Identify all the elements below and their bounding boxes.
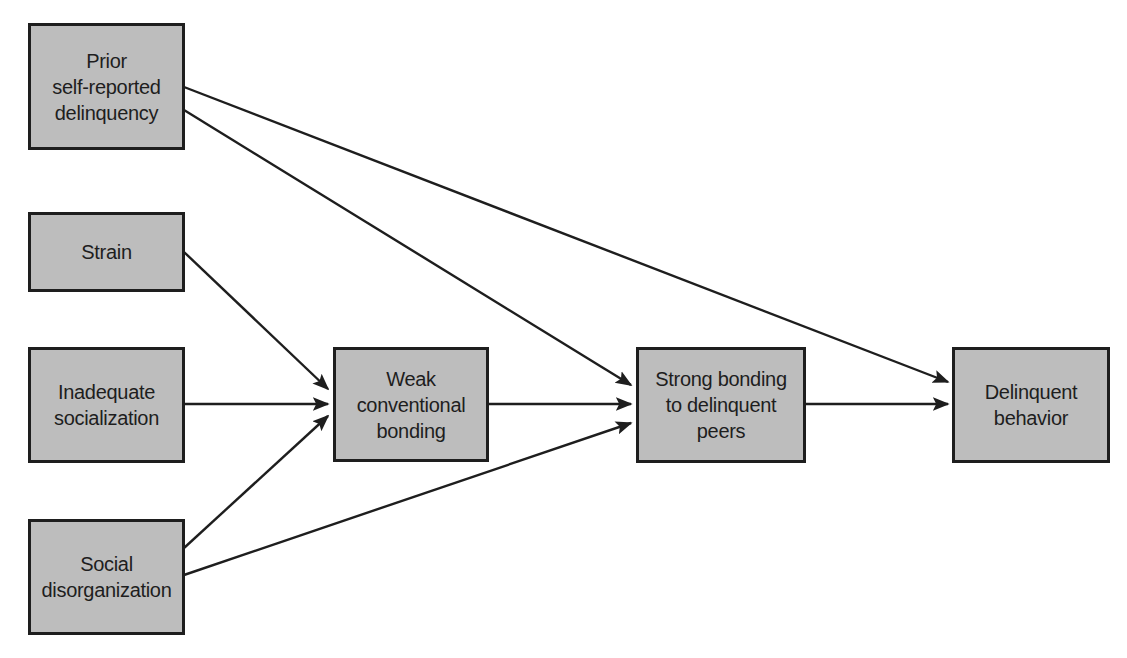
node-strong-bonding-to-delinquent-peers: Strong bonding to delinquent peers <box>636 347 806 463</box>
edge-prior-to-strong <box>184 110 631 385</box>
edge-social-to-weak <box>184 416 328 548</box>
node-inadequate-socialization: Inadequate socialization <box>28 347 185 463</box>
node-social-disorganization: Social disorganization <box>28 519 185 635</box>
node-delinquent-behavior: Delinquent behavior <box>952 347 1110 463</box>
node-weak-conventional-bonding: Weak conventional bonding <box>333 347 489 462</box>
node-prior-self-reported-delinquency: Prior self-reported delinquency <box>28 23 185 150</box>
node-strain: Strain <box>28 212 185 292</box>
edge-strain-to-weak <box>184 252 328 389</box>
edge-prior-to-delinquent <box>184 87 948 382</box>
